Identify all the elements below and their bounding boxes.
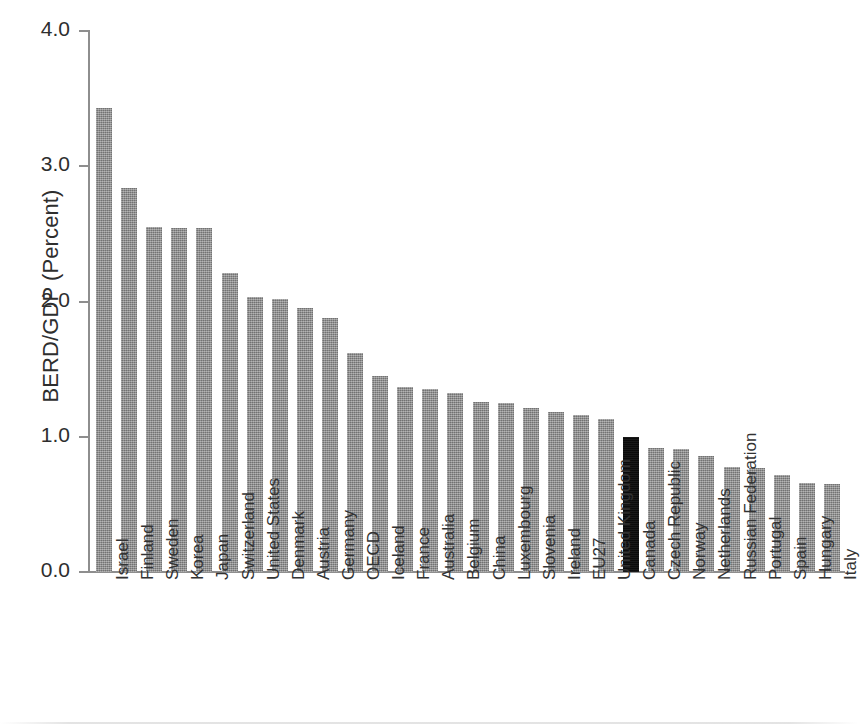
x-axis-label: Denmark bbox=[286, 400, 311, 580]
y-tick-label: 2.0 bbox=[41, 288, 70, 312]
x-axis-label: Spain bbox=[788, 400, 813, 580]
x-axis-label: Sweden bbox=[160, 400, 185, 580]
x-axis-label: Italy bbox=[838, 400, 863, 580]
x-axis-label: China bbox=[487, 400, 512, 580]
x-axis-label: Hungary bbox=[813, 400, 838, 580]
x-axis-label: Czech Republic bbox=[662, 400, 687, 580]
x-axis-label: Luxembourg bbox=[512, 400, 537, 580]
x-axis-label: Japan bbox=[210, 400, 235, 580]
x-axis-label: Iceland bbox=[386, 400, 411, 580]
x-axis-label: Switzerland bbox=[236, 400, 261, 580]
y-tick-label: 3.0 bbox=[41, 152, 70, 176]
x-axis-label: Germany bbox=[336, 400, 361, 580]
x-axis-label: France bbox=[411, 400, 436, 580]
x-axis-label: OECD bbox=[361, 400, 386, 580]
x-axis-label: Canada bbox=[637, 400, 662, 580]
x-axis-label: Ireland bbox=[562, 400, 587, 580]
y-tick-label: 0.0 bbox=[41, 558, 70, 582]
y-tick-label: 1.0 bbox=[41, 423, 70, 447]
x-axis-label: United States bbox=[261, 400, 286, 580]
plot-area: 0.01.02.03.04.0 IsraelFinlandSwedenKorea… bbox=[88, 28, 848, 576]
x-axis-label: Russian Federation bbox=[738, 400, 763, 580]
x-axis-label: EU27 bbox=[587, 400, 612, 580]
x-axis-label: Netherlands bbox=[712, 400, 737, 580]
y-tick: 4.0 bbox=[79, 30, 90, 32]
y-tick: 2.0 bbox=[79, 301, 90, 303]
x-axis-label: Korea bbox=[185, 400, 210, 580]
x-axis-label: Israel bbox=[110, 400, 135, 580]
x-axis-label: Australia bbox=[436, 400, 461, 580]
x-axis-label: United Kingdom bbox=[612, 400, 637, 580]
y-tick: 0.0 bbox=[79, 571, 90, 573]
x-axis-label: Belgium bbox=[461, 400, 486, 580]
y-tick-label: 4.0 bbox=[41, 17, 70, 41]
y-tick: 3.0 bbox=[79, 165, 90, 167]
x-axis-label: Austria bbox=[311, 400, 336, 580]
x-axis-label: Finland bbox=[135, 400, 160, 580]
x-axis-label: Norway bbox=[687, 400, 712, 580]
y-tick: 1.0 bbox=[79, 436, 90, 438]
x-axis-label: Portugal bbox=[763, 400, 788, 580]
x-axis-label: Slovenia bbox=[537, 400, 562, 580]
